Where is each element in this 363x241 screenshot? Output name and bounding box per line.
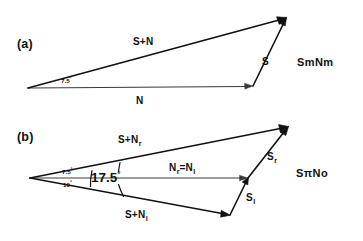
panel-b-vector-S-plus-Nl-arrowhead (221, 210, 231, 217)
panel-b-vector-N-label: Nr=Nl (169, 163, 195, 173)
panel-b-vector-Sr-base: S (267, 151, 274, 162)
panel-a-angle-label: 7.5° (61, 76, 72, 84)
panel-b-vector-N-tail: =N (179, 162, 192, 173)
panel-b-angle-7p5-degree-symbol: ° (71, 166, 73, 172)
panel-b-angle-17p5-value: 17.5 (91, 170, 117, 185)
panel-b-angle-10-label: 10° (63, 180, 72, 188)
panel-b-vector-S-plus-Nl-base: S+N (125, 209, 145, 220)
panel-a-label: (a) (17, 38, 33, 51)
panel-b-angle-10-value: 10 (63, 181, 70, 188)
panel-b-angle-7p5-label: 7.5° (62, 167, 73, 175)
panel-a-vector-S-line (253, 24, 284, 87)
panel-b-angle-10-degree-symbol: ° (70, 179, 72, 185)
panel-b-vector-N-subscript: r (177, 167, 180, 176)
panel-b-vector-S-plus-Nl-subscript: l (146, 214, 148, 223)
panel-b-vector-N-base: N (169, 162, 176, 173)
panel-b-vector-Sr-subscript: r (274, 156, 277, 165)
panel-a-vector-N-arrowhead (245, 83, 254, 89)
panel-a-vector-N-label: N (136, 96, 143, 106)
panel-a-vector-S-label: S (262, 57, 269, 67)
figure-root: (a) S+N S N 7.5° SmNm (b) S+Nr S+Nl Nr=N… (0, 0, 363, 241)
panel-a-angle-degree-symbol: ° (70, 75, 72, 81)
panel-b-vector-S-plus-Nr-subscript: r (139, 139, 142, 148)
panel-a-condition-label: SmNm (297, 57, 333, 68)
panel-b-vector-Sl-line (230, 183, 246, 215)
vector-diagram-canvas (0, 0, 363, 241)
panel-b-angle-17p5-label: 17.5° (91, 170, 120, 184)
panel-b-vector-Sr-label: Sr (267, 152, 277, 162)
panel-b-vector-S-plus-Nr-label: S+Nr (118, 135, 141, 145)
panel-a-vector-S-plus-N-label: S+N (133, 37, 153, 47)
panel-b-vector-Sl-base: S (246, 192, 253, 203)
panel-b-condition-label: SπNo (296, 168, 328, 179)
panel-b-angle-7p5-value: 7.5 (62, 168, 71, 175)
panel-b-vector-Sl-label: Sl (246, 193, 255, 203)
panel-b-vector-S-plus-Nl-label: S+Nl (125, 210, 148, 220)
panel-a-angle-value: 7.5 (61, 77, 70, 84)
panel-b-label: (b) (17, 131, 34, 144)
panel-a-vector-N-line (28, 87, 246, 89)
panel-b-vector-S-plus-Nr-base: S+N (118, 134, 138, 145)
panel-b-angle-17p5-degree-symbol: ° (117, 170, 120, 179)
